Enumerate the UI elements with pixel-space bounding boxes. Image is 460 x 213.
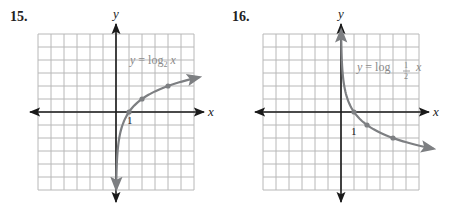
curve-point (364, 122, 369, 127)
graph-panel-16: 16. xy1y = log12x (230, 0, 460, 213)
fraction-numerator: 1 (404, 61, 408, 70)
tick-label-1: 1 (351, 125, 357, 137)
log2-graph: xy1y = log2x (0, 0, 230, 213)
equation-variable: x (415, 60, 422, 74)
equation-label: y = log2x (129, 53, 176, 69)
y-axis-label: y (336, 6, 344, 21)
graph-panel-15: 15. xy1y = log2x (0, 0, 230, 213)
fraction-denominator: 2 (404, 72, 408, 81)
curve-point (390, 135, 395, 140)
y-axis-label: y (111, 6, 119, 21)
equation-label: y = log (356, 60, 390, 74)
curve-point (139, 96, 144, 101)
curve-point (351, 109, 356, 114)
log-half-graph: xy1y = log12x (230, 0, 460, 213)
x-axis-label: x (432, 104, 439, 119)
x-axis-label: x (207, 104, 214, 119)
curve-point (126, 109, 131, 114)
curve-point (165, 83, 170, 88)
